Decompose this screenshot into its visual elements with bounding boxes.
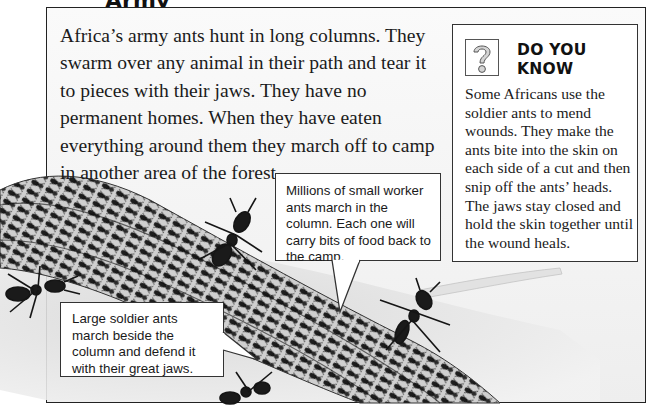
callout-soldier-ants-pointer — [222, 330, 262, 370]
callout-soldier-ants-text: Large soldier ants march beside the colu… — [72, 311, 195, 376]
callout-worker-ants: Millions of small worker ants march in t… — [275, 173, 441, 261]
did-you-know-body: Some Africans use the soldier ants to me… — [465, 85, 637, 252]
callout-worker-ants-pointer — [330, 260, 380, 315]
main-paragraph: Africa’s army ants hunt in long columns.… — [60, 22, 440, 186]
did-you-know-box: DO YOU KNOW Some Africans use the soldie… — [452, 24, 638, 262]
callout-soldier-ants: Large soldier ants march beside the colu… — [60, 302, 224, 377]
title-line-1: DO YOU — [517, 41, 587, 60]
did-you-know-title: DO YOU KNOW — [517, 41, 587, 79]
callout-worker-ants-text: Millions of small worker ants march in t… — [286, 183, 431, 264]
question-mark-icon — [465, 39, 499, 76]
title-line-2: KNOW — [517, 60, 587, 79]
